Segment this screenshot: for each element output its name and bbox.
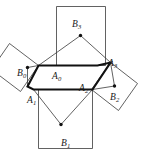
- center-dot-b3: [79, 34, 82, 37]
- spoke-b3-a3: [81, 36, 111, 63]
- vertex-label-a0-base: A: [52, 71, 58, 81]
- spoke-b1-a2: [61, 90, 93, 125]
- center-label-b2-base: B: [110, 92, 116, 102]
- center-label-b3-base: B: [72, 19, 78, 29]
- center-label-b1: B1: [61, 139, 70, 149]
- vertex-label-a2: A2: [79, 84, 88, 94]
- center-label-b0-base: B: [17, 68, 23, 78]
- vertex-label-a1-sub: 1: [33, 99, 36, 106]
- geometry-figure: A0 A1 A2 A3 B0 B1 B2 B3: [0, 0, 143, 157]
- center-label-b3-sub: 3: [78, 23, 81, 30]
- vertex-label-a0-sub: 0: [58, 75, 61, 82]
- vertex-label-a3: A3: [108, 59, 117, 69]
- hexagon-outline: [28, 63, 111, 90]
- center-label-b0: B0: [17, 69, 26, 79]
- spoke-b1-a1: [34, 90, 62, 125]
- spokes-group: [28, 36, 115, 125]
- vertex-label-a1: A1: [27, 96, 36, 106]
- vertex-label-a2-sub: 2: [85, 87, 88, 94]
- spoke-b2-a2: [93, 86, 115, 90]
- center-dot-b1: [59, 123, 62, 126]
- center-dots-group: [26, 34, 116, 126]
- center-label-b3: B3: [72, 20, 81, 30]
- center-label-b1-sub: 1: [67, 142, 70, 149]
- center-label-b0-sub: 0: [23, 72, 26, 79]
- vertex-label-a3-sub: 3: [114, 62, 117, 69]
- vertex-label-a2-base: A: [79, 83, 85, 93]
- spoke-b3-a0: [39, 36, 81, 66]
- center-label-b1-base: B: [61, 138, 67, 148]
- center-dot-b0: [26, 66, 29, 69]
- vertex-label-a0: A0: [52, 72, 61, 82]
- center-dot-b2: [113, 84, 116, 87]
- vertex-label-a1-base: A: [27, 95, 33, 105]
- center-label-b2: B2: [110, 93, 119, 103]
- center-label-b2-sub: 2: [116, 96, 119, 103]
- vertex-label-a3-base: A: [108, 58, 114, 68]
